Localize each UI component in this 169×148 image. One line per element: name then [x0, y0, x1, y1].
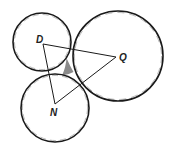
vertex-label-n: N	[50, 107, 58, 118]
diagram-canvas: D Q N	[0, 0, 169, 148]
circle-q	[73, 11, 163, 101]
circle-q-inner-ring	[75, 13, 162, 100]
tangent-circles-diagram: D Q N	[0, 0, 169, 148]
vertex-label-d: D	[36, 34, 43, 45]
vertex-label-q: Q	[119, 52, 127, 63]
